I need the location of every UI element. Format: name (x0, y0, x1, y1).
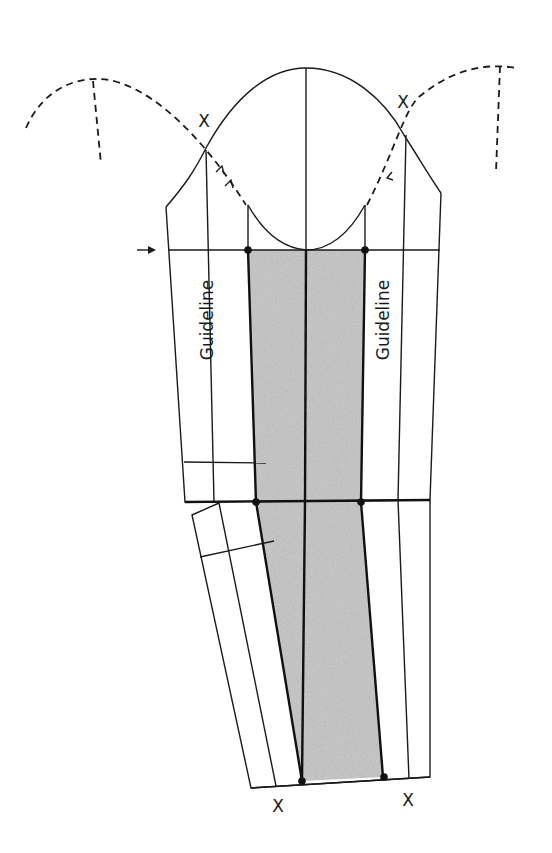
arrow-marker-icon (137, 246, 156, 254)
guideline-label-right: Guideline (373, 280, 393, 361)
notch-ticks (216, 166, 393, 188)
notch-label-hem-right: X (402, 790, 414, 810)
notch-label-cap-left: X (198, 111, 210, 131)
elbow-line (185, 500, 430, 502)
guideline-label-left: Guideline (197, 280, 217, 361)
dashed-armhole-left (26, 79, 246, 205)
dashed-armhole-right (367, 66, 517, 205)
elbow-dart-marker-upper (184, 462, 266, 463)
sleeve-pattern-diagram: Guideline Guideline X X X X (0, 0, 552, 853)
notch-label-hem-left: X (272, 796, 284, 816)
notch-label-cap-right: X (397, 92, 409, 112)
